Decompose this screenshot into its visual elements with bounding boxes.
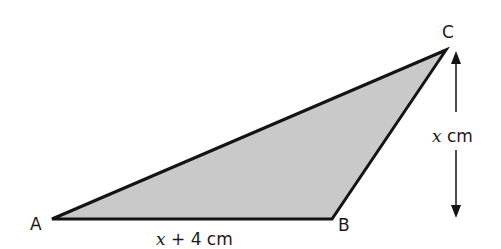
vertex-label-b: B <box>338 215 350 235</box>
height-label: x cm <box>432 126 473 146</box>
base-label: x + 4 cm <box>156 229 233 249</box>
height-arrow-top-head <box>451 51 461 64</box>
triangle-abc <box>52 50 446 219</box>
height-label-variable: x <box>432 126 442 146</box>
vertex-label-a: A <box>30 214 42 234</box>
vertex-label-c: C <box>442 22 454 42</box>
triangle-diagram: A B C x cm x + 4 cm <box>0 0 501 249</box>
base-label-rest: + 4 cm <box>166 229 233 249</box>
height-label-unit: cm <box>442 126 473 146</box>
height-arrow-bottom-head <box>451 205 461 218</box>
base-label-variable: x <box>156 229 166 249</box>
